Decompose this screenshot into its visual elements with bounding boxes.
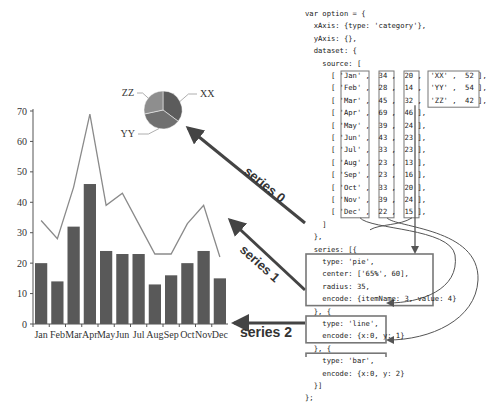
pie-chart: XXYYZZ bbox=[121, 87, 216, 139]
code-line: xAxis: {type: 'category'}, bbox=[305, 20, 426, 32]
x-tick-label: Dec bbox=[212, 329, 229, 340]
series-0-label: series 0 bbox=[241, 163, 288, 205]
x-tick-label: Aug bbox=[146, 329, 163, 340]
code-line: series: [{ bbox=[305, 244, 357, 256]
y-tick-label: 40 bbox=[17, 197, 27, 208]
x-tick-label: Jul bbox=[133, 329, 145, 340]
x-tick-label: Feb bbox=[50, 329, 65, 340]
x-axis: JanFebMarAprMayJunJulAugSepOctNovDec bbox=[33, 324, 228, 340]
y-tick-label: 10 bbox=[17, 288, 27, 299]
y-tick-label: 70 bbox=[17, 106, 27, 117]
code-line: center: ['65%', 60], bbox=[305, 268, 409, 280]
x-tick-label: Oct bbox=[180, 329, 195, 340]
code-line: [ 'Jun' , 43 , 23 ], bbox=[305, 132, 426, 144]
bar bbox=[149, 284, 161, 324]
code-line: }, bbox=[305, 231, 322, 243]
code-line: source: [ bbox=[305, 58, 361, 70]
bar bbox=[165, 275, 177, 324]
bar bbox=[116, 254, 128, 324]
y-tick-label: 30 bbox=[17, 227, 27, 238]
pie-label: ZZ bbox=[122, 87, 134, 98]
code-line: [ 'Dec' , 22 , 15 ], bbox=[305, 206, 426, 218]
x-tick-label: May bbox=[97, 329, 115, 340]
code-line: dataset: { bbox=[305, 45, 357, 57]
code-line: [ 'May' , 39 , 24 ], bbox=[305, 120, 426, 132]
code-line: type: 'line', bbox=[305, 318, 379, 330]
y-tick-label: 50 bbox=[17, 166, 27, 177]
code-line: encode: {itemName: 3, value: 4} bbox=[305, 293, 456, 305]
code-line: [ 'Nov' , 39 , 24 ], bbox=[305, 194, 426, 206]
bar-series bbox=[35, 184, 226, 324]
code-line: [ 'Oct' , 33 , 20 ], bbox=[305, 182, 426, 194]
bar bbox=[35, 263, 47, 324]
bar bbox=[198, 251, 210, 324]
code-line: [ 'Jan' , 34 , 20 , 'XX' , 52 ], bbox=[305, 70, 487, 82]
bar bbox=[214, 278, 226, 324]
y-tick-label: 20 bbox=[17, 258, 27, 269]
x-tick-label: Sep bbox=[164, 329, 179, 340]
code-line: [ 'Mar' , 45 , 32 , 'ZZ' , 42 ], bbox=[305, 95, 487, 107]
series-2-label: series 2 bbox=[240, 324, 292, 340]
y-tick-label: 60 bbox=[17, 136, 27, 147]
bar bbox=[51, 281, 63, 324]
bar bbox=[100, 251, 112, 324]
code-line: var option = { bbox=[305, 8, 366, 20]
x-tick-label: Jun bbox=[115, 329, 129, 340]
code-line: radius: 35, bbox=[305, 281, 370, 293]
pie-label: YY bbox=[121, 128, 135, 139]
code-line: type: 'bar', bbox=[305, 355, 374, 367]
y-tick-label: 0 bbox=[22, 319, 27, 330]
pie-slice bbox=[144, 91, 163, 114]
code-line: }; bbox=[305, 392, 314, 404]
code-line: yAxis: {}, bbox=[305, 33, 357, 45]
bar bbox=[84, 184, 96, 324]
code-line: }, { bbox=[305, 343, 331, 355]
pie-label: XX bbox=[200, 88, 215, 99]
code-line: [ 'Jul' , 33 , 23 ], bbox=[305, 144, 426, 156]
x-tick-label: Nov bbox=[195, 329, 212, 340]
code-line: [ 'Sep' , 23 , 16 ], bbox=[305, 169, 426, 181]
x-tick-label: Jan bbox=[34, 329, 47, 340]
code-line: encode: {x:0, y: 1} bbox=[305, 330, 405, 342]
code-line: [ 'Apr' , 69 , 46 ], bbox=[305, 107, 426, 119]
bar bbox=[68, 227, 80, 324]
bar bbox=[133, 254, 145, 324]
code-line: encode: {x:0, y: 2} bbox=[305, 368, 405, 380]
code-line: [ 'Feb' , 28 , 14 , 'YY' , 54 ], bbox=[305, 82, 487, 94]
code-line: }, { bbox=[305, 306, 331, 318]
code-line: [ 'Aug' , 23 , 13 ], bbox=[305, 157, 426, 169]
y-axis: 010203040506070 bbox=[17, 106, 33, 330]
code-line: }] bbox=[305, 380, 322, 392]
code-line: ] bbox=[305, 219, 327, 231]
bar bbox=[181, 263, 193, 324]
code-line: type: 'pie', bbox=[305, 256, 374, 268]
line-connector bbox=[360, 218, 455, 303]
x-tick-label: Mar bbox=[65, 329, 82, 340]
x-tick-label: Apr bbox=[82, 329, 98, 340]
